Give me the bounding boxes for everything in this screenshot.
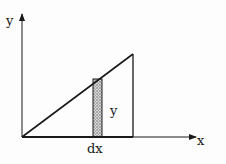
diagram-canvas: y x y dx	[0, 0, 226, 164]
x-axis-label: x	[197, 134, 204, 147]
y-axis-label: y	[6, 14, 13, 27]
triangle-hypotenuse	[22, 54, 133, 137]
shaded-strip	[93, 79, 102, 137]
diagram-figure	[0, 0, 226, 164]
strip-height-label: y	[110, 104, 117, 117]
strip-width-label: dx	[87, 142, 103, 155]
